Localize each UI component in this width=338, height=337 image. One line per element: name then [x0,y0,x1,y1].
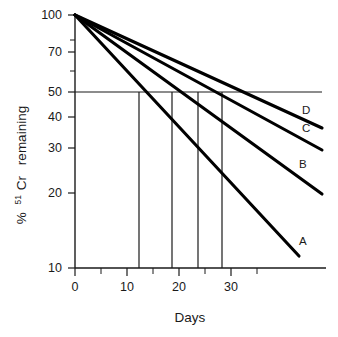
series-label-d: D [302,104,310,116]
y-axis-title: % 51 Cr remaining [9,106,29,224]
y-axis-title-percent: % [14,212,29,224]
series-label-a: A [299,235,307,247]
y-axis-title-word: remaining [14,106,29,165]
x-tick-label-20: 20 [172,280,186,294]
y-tick-label-20: 20 [48,186,62,200]
chart-container: 100 70 50 40 30 20 10 0 10 20 30 A [0,0,338,337]
x-tick-label-30: 30 [224,280,238,294]
x-tick-label-0: 0 [72,280,79,294]
y-tick-label-10: 10 [48,261,62,275]
x-axis-title: Days [175,310,206,325]
y-tick-label-70: 70 [48,45,62,59]
series-label-c: C [302,122,310,134]
y-axis-title-element: Cr [14,175,29,190]
y-axis-title-superscript: 51 [13,195,23,205]
y-tick-label-50: 50 [48,85,62,99]
series-line-a [75,15,299,256]
series-label-b: B [299,158,307,170]
x-tick-label-10: 10 [120,280,134,294]
y-tick-label-30: 30 [48,141,62,155]
survival-curve-chart: 100 70 50 40 30 20 10 0 10 20 30 A [0,0,338,337]
y-tick-label-40: 40 [48,110,62,124]
svg-text:% 51 Cr: % 51 Cr remaining [9,106,29,224]
y-tick-label-100: 100 [41,8,62,22]
